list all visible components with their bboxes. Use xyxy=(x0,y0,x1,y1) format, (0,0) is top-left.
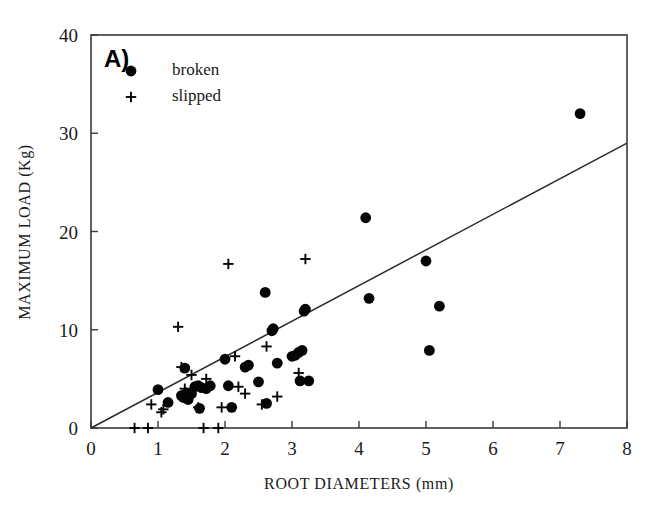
legend: brokenslipped xyxy=(126,60,222,105)
figure-panel-a: 012345678010203040 ROOT DIAMETERS (mm) M… xyxy=(0,0,669,519)
data-point-broken xyxy=(223,380,234,391)
y-tick-label: 20 xyxy=(59,222,78,243)
data-point-broken xyxy=(194,403,205,414)
data-point-broken xyxy=(153,384,164,395)
legend-label-slipped: slipped xyxy=(172,86,222,105)
y-axis-title: MAXIMUM LOAD (Kg) xyxy=(16,144,34,320)
legend-label-broken: broken xyxy=(172,60,220,79)
x-tick-label: 2 xyxy=(220,438,230,459)
x-tick-label: 8 xyxy=(622,438,632,459)
data-point-broken xyxy=(575,108,586,119)
x-tick-label: 7 xyxy=(555,438,565,459)
data-point-broken xyxy=(243,360,254,371)
data-point-broken xyxy=(360,212,371,223)
legend-marker-broken xyxy=(126,66,137,77)
x-tick-label: 1 xyxy=(153,438,163,459)
y-tick-label: 10 xyxy=(59,320,78,341)
data-point-slipped xyxy=(223,259,233,269)
x-tick-label: 0 xyxy=(86,438,96,459)
data-point-slipped xyxy=(233,382,243,392)
trend-line xyxy=(91,143,627,428)
legend-marker-slipped xyxy=(126,92,136,102)
axis-tick-labels: 012345678010203040 xyxy=(59,25,632,459)
data-point-slipped xyxy=(173,322,183,332)
data-point-slipped xyxy=(198,423,208,433)
data-point-slipped xyxy=(300,254,310,264)
data-point-slipped xyxy=(146,399,156,409)
x-axis-title: ROOT DIAMETERS (mm) xyxy=(264,475,454,493)
data-point-broken xyxy=(434,301,445,312)
data-point-slipped xyxy=(272,391,282,401)
x-tick-label: 6 xyxy=(488,438,498,459)
y-tick-label: 40 xyxy=(59,25,78,46)
data-point-broken xyxy=(268,323,279,334)
data-point-slipped xyxy=(240,388,250,398)
data-point-slipped xyxy=(143,423,153,433)
x-tick-label: 3 xyxy=(287,438,297,459)
x-tick-label: 5 xyxy=(421,438,431,459)
y-tick-label: 30 xyxy=(59,123,78,144)
data-point-broken xyxy=(272,358,283,369)
data-point-slipped xyxy=(213,423,223,433)
data-point-broken xyxy=(260,287,271,298)
data-point-broken xyxy=(421,256,432,267)
data-point-broken xyxy=(253,376,264,387)
data-point-slipped xyxy=(261,341,271,351)
data-point-broken xyxy=(300,304,311,315)
data-point-slipped xyxy=(129,423,139,433)
data-point-broken xyxy=(364,293,375,304)
data-point-broken xyxy=(303,375,314,386)
data-points xyxy=(129,108,585,433)
panel-label: A) xyxy=(104,45,129,72)
data-point-broken xyxy=(226,402,237,413)
y-tick-label: 0 xyxy=(69,418,79,439)
data-point-broken xyxy=(424,345,435,356)
data-point-broken xyxy=(220,354,231,365)
x-tick-label: 4 xyxy=(354,438,364,459)
data-point-broken xyxy=(297,345,308,356)
scatter-plot: 012345678010203040 ROOT DIAMETERS (mm) M… xyxy=(0,0,669,519)
data-point-slipped xyxy=(216,402,226,412)
